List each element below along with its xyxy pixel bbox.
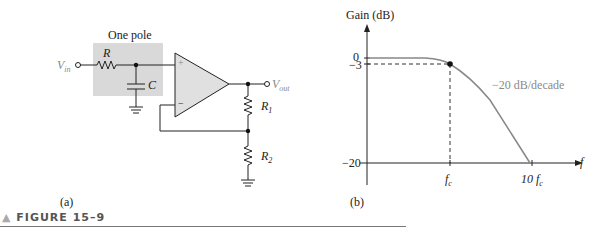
y-tick-3: −3 [349, 58, 362, 73]
slope-label: −20 dB/decade [492, 78, 564, 93]
r-label: R [103, 46, 110, 61]
vout-label: Vout [272, 77, 290, 93]
r2-label: R2 [261, 149, 272, 165]
panel-b-label: (b) [350, 195, 364, 210]
y-axis-label: Gain (dB) [346, 8, 394, 23]
vin-label: Vin [57, 58, 71, 74]
caption-rule [0, 226, 406, 227]
plus-sign: + [178, 57, 184, 68]
minus-sign: − [178, 98, 184, 109]
y-tick-20: −20 [342, 156, 361, 171]
figure-caption: ▲ FIGURE 15–9 [2, 211, 105, 224]
x-axis-label: f [580, 155, 583, 170]
c-label: C [148, 78, 156, 93]
x-tick-10fc: 10 fc [521, 172, 543, 188]
r1-label: R1 [261, 99, 272, 115]
x-tick-fc: fc [445, 172, 452, 188]
diagram-canvas [0, 0, 595, 238]
panel-a-label: (a) [60, 195, 73, 210]
pole-label: One pole [108, 28, 152, 43]
